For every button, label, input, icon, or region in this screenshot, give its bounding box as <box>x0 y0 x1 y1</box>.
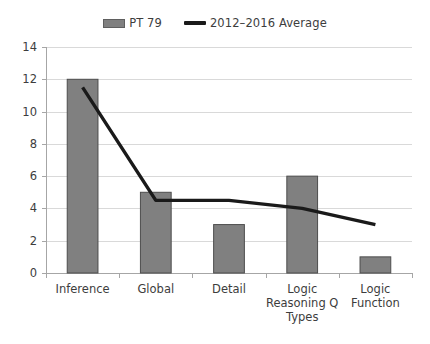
bar[interactable] <box>67 79 98 273</box>
bar[interactable] <box>140 192 171 273</box>
y-tick-label: 6 <box>30 169 37 183</box>
line-series-group <box>83 87 376 224</box>
y-tick-label: 0 <box>30 266 37 280</box>
bar[interactable] <box>214 225 245 273</box>
x-tick-labels-group: InferenceGlobalDetailLogicReasoning QTyp… <box>56 282 400 324</box>
x-tick-label: Function <box>351 296 400 310</box>
y-tick-label: 4 <box>30 201 37 215</box>
bar[interactable] <box>287 176 318 273</box>
x-tick-label: Inference <box>56 282 110 296</box>
chart-svg: 02468101214 InferenceGlobalDetailLogicRe… <box>0 0 430 344</box>
y-tick-label: 2 <box>30 234 37 248</box>
y-tick-labels-group: 02468101214 <box>22 40 37 280</box>
bar[interactable] <box>360 257 391 273</box>
plot-area: 02468101214 InferenceGlobalDetailLogicRe… <box>0 0 430 344</box>
average-line[interactable] <box>83 87 376 224</box>
x-tick-label: Types <box>285 310 318 324</box>
chart-container: PT 79 2012–2016 Average 02468101214 Infe… <box>0 0 430 344</box>
y-axis <box>42 47 47 274</box>
x-axis <box>46 273 413 278</box>
x-tick-label: Detail <box>212 282 246 296</box>
y-tick-label: 8 <box>30 137 37 151</box>
x-tick-label: Global <box>137 282 174 296</box>
x-tick-label: Logic <box>360 282 390 296</box>
y-tick-label: 10 <box>22 105 37 119</box>
x-tick-label: Reasoning Q <box>266 296 338 310</box>
x-tick-label: Logic <box>287 282 317 296</box>
y-tick-label: 12 <box>22 72 37 86</box>
y-tick-label: 14 <box>22 40 37 54</box>
